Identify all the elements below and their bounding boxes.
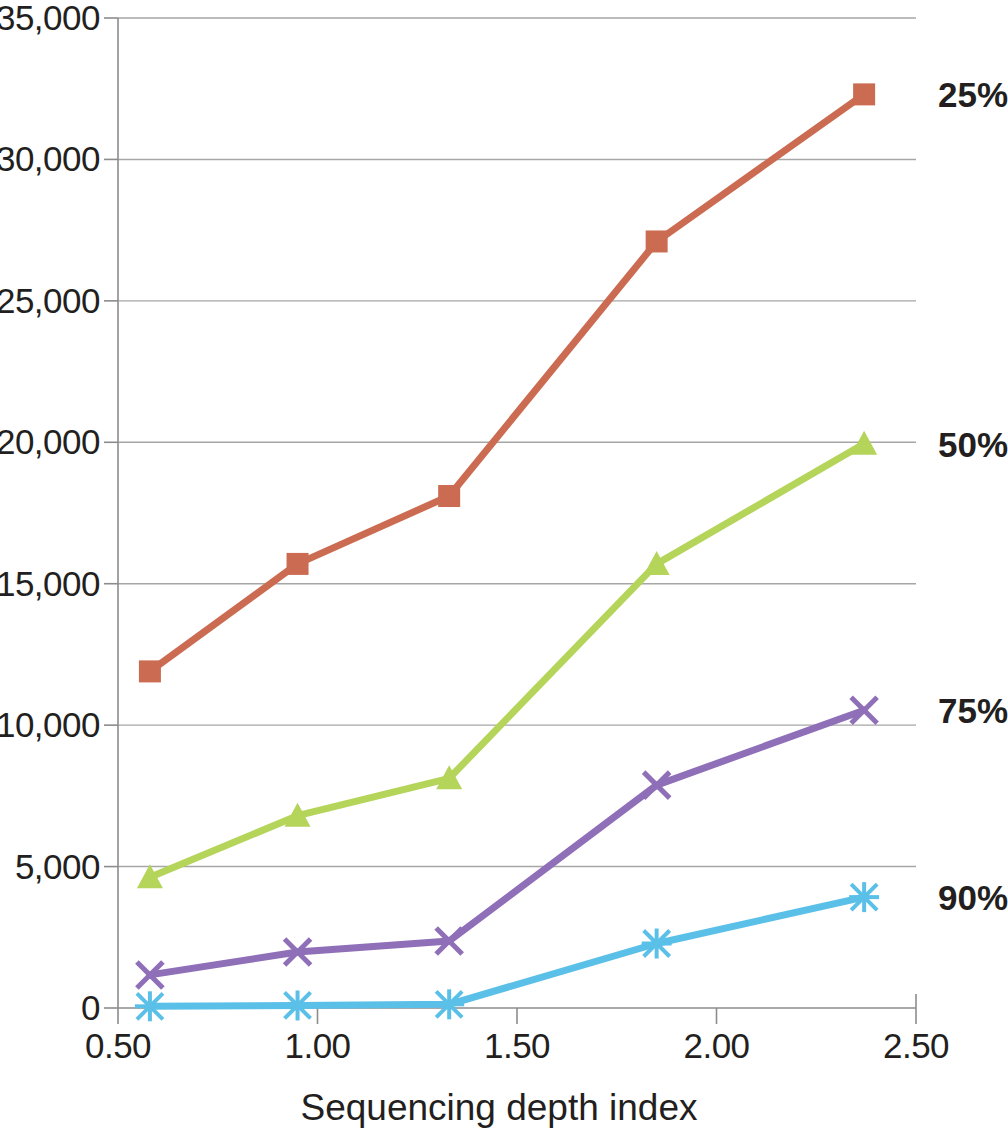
data-point-marker (139, 660, 161, 682)
y-axis-tick-label: 35,000 (0, 0, 100, 35)
data-point-marker (642, 929, 672, 959)
series-label-50pct: 50% (938, 426, 1008, 461)
y-axis-tick-label: 20,000 (0, 424, 100, 459)
series-line (150, 710, 864, 975)
series-25pct (139, 83, 875, 682)
series-label-75pct: 75% (938, 693, 1008, 728)
x-axis-tick-label: 0.50 (85, 1028, 151, 1063)
data-point-marker (646, 230, 668, 252)
data-point-marker (434, 989, 464, 1019)
x-axis-title: Sequencing depth index (0, 1088, 998, 1128)
series-line (150, 897, 864, 1006)
data-point-marker (438, 485, 460, 507)
x-axis-tick-label: 2.50 (883, 1028, 949, 1063)
x-axis-tick-label: 2.00 (683, 1028, 749, 1063)
data-point-marker (644, 551, 670, 575)
data-point-marker (287, 553, 309, 575)
data-point-marker (853, 83, 875, 105)
series-label-90pct: 90% (938, 880, 1008, 915)
series-50pct (137, 431, 877, 889)
series-90pct (135, 882, 879, 1021)
data-point-marker (135, 991, 165, 1021)
series-75pct (137, 697, 877, 988)
y-axis-tick-label: 0 (81, 990, 100, 1025)
x-axis-tick-label: 1.50 (484, 1028, 550, 1063)
series-line (150, 94, 864, 671)
y-axis-tick-label: 15,000 (0, 566, 100, 601)
series-label-25pct: 25% (938, 77, 1008, 112)
series-line (150, 444, 864, 878)
x-axis-tick-label: 1.00 (284, 1028, 350, 1063)
y-axis-tick-label: 25,000 (0, 283, 100, 318)
y-axis-tick-labels: 05,00010,00015,00020,00025,00030,00035,0… (0, 0, 100, 1040)
data-point-marker (849, 882, 879, 912)
data-point-marker (283, 990, 313, 1020)
y-axis-tick-label: 30,000 (0, 141, 100, 176)
y-axis-tick-label: 5,000 (15, 849, 100, 884)
y-axis-tick-label: 10,000 (0, 707, 100, 742)
